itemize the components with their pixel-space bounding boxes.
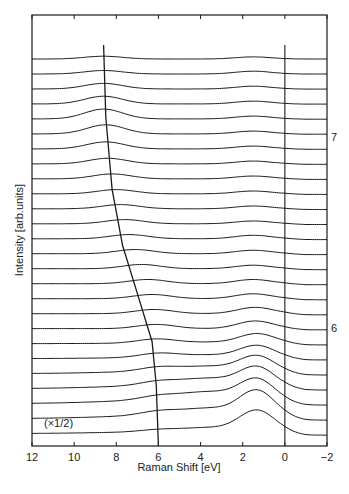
x-tick-label: 2 [240, 451, 246, 463]
dispersing-feature-line [104, 45, 159, 446]
spectrum-trace [32, 334, 327, 345]
spectrum-trace [32, 83, 327, 89]
spectrum-trace [32, 235, 327, 240]
x-tick-label: 12 [26, 451, 38, 463]
spectrum-trace [32, 378, 327, 405]
spectrum-trace [32, 250, 327, 255]
x-axis-title: Raman Shift [eV] [137, 461, 220, 473]
scale-note: (×1/2) [44, 417, 73, 429]
spectrum-trace [32, 96, 327, 104]
spectrum-trace [32, 220, 327, 225]
raman-spectra-chart: 121086420−2 Raman Shift [eV] Intensity [… [0, 0, 349, 494]
right-label-6: 6 [331, 322, 337, 334]
y-axis-title: Intensity [arb.units] [13, 184, 25, 276]
spectrum-trace [32, 174, 327, 180]
spectrum-trace [32, 265, 327, 270]
spectrum-trace [32, 321, 327, 330]
spectrum-trace [32, 366, 327, 390]
spectrum-trace [32, 294, 327, 300]
spectra-traces [32, 56, 327, 435]
spectrum-trace [32, 125, 327, 134]
x-axis-ticks [32, 15, 327, 446]
spectrum-trace [32, 280, 327, 285]
right-label-7: 7 [331, 131, 337, 143]
spectrum-trace [32, 410, 327, 435]
spectrum-trace [32, 142, 327, 149]
spectrum-trace [32, 71, 327, 75]
x-tick-label: −2 [321, 451, 334, 463]
spectrum-trace [32, 190, 327, 195]
x-tick-label: 10 [68, 451, 80, 463]
spectrum-trace [32, 158, 327, 164]
x-tick-label: 0 [282, 451, 288, 463]
spectrum-trace [32, 56, 327, 59]
spectrum-trace [32, 307, 327, 314]
spectrum-trace [32, 109, 327, 119]
x-tick-label: 8 [113, 451, 119, 463]
spectrum-trace [32, 205, 327, 210]
spectrum-trace [32, 345, 327, 360]
plot-frame [32, 15, 327, 446]
